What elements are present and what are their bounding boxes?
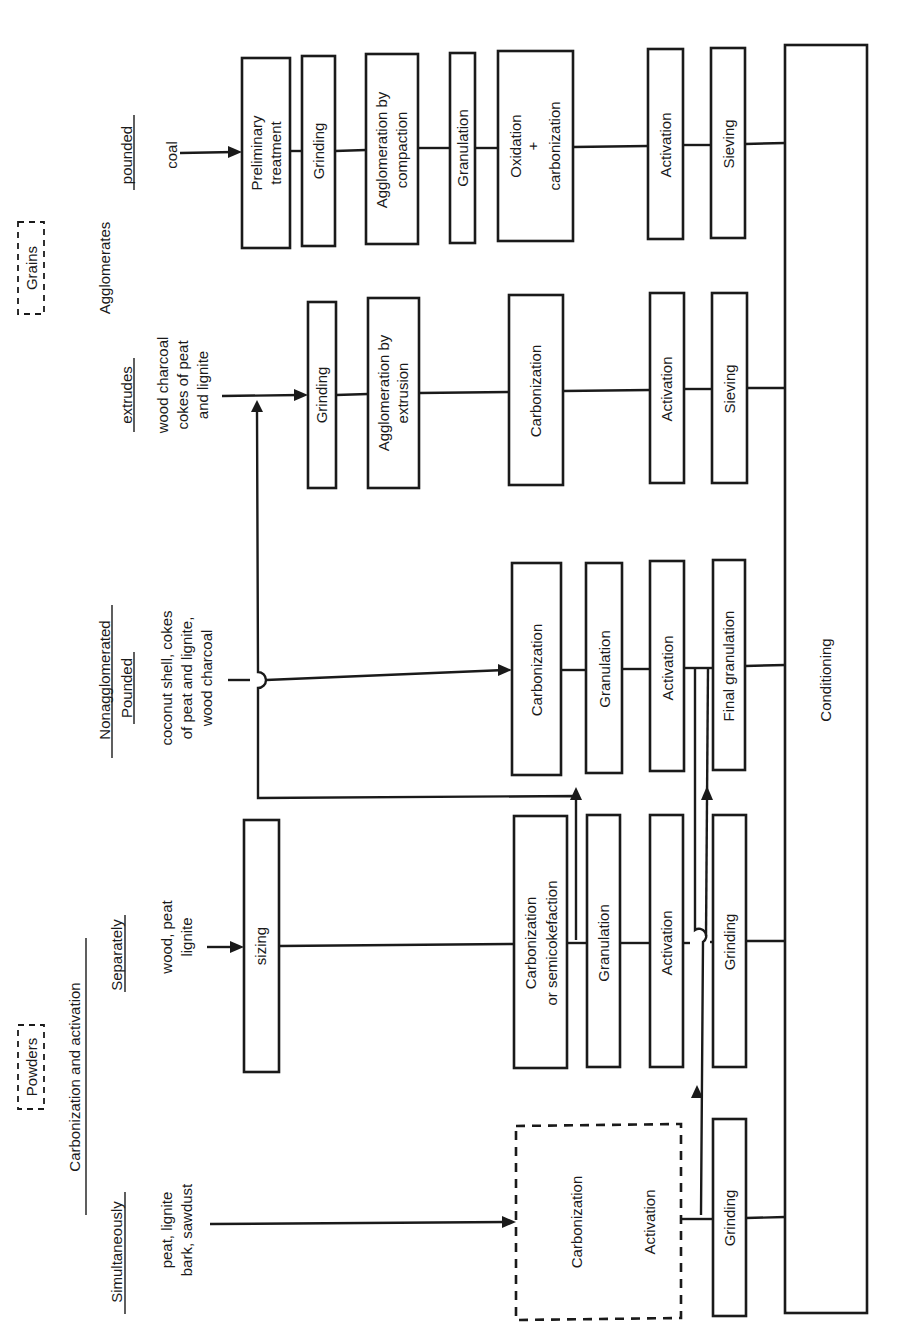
- svg-text:of peat and lignite,: of peat and lignite,: [178, 617, 195, 740]
- svg-text:cokes of peat: cokes of peat: [174, 340, 191, 430]
- svg-text:sizing: sizing: [252, 927, 269, 965]
- step-granulation-separately: Granulation: [587, 815, 620, 1067]
- svg-text:Oxidation: Oxidation: [507, 114, 524, 177]
- feed-pounded-nonagglomerated: coconut shell, cokes of peat and lignite…: [158, 610, 215, 745]
- step-activation-coal: Activation: [648, 49, 683, 239]
- activated-carbon-process-diagram: Grains Agglomerates pounded extrudes Non…: [0, 0, 903, 1340]
- step-grinding-extrudes: Grinding: [308, 302, 336, 488]
- svg-text:Carbonization: Carbonization: [528, 624, 545, 717]
- svg-text:Powders: Powders: [23, 1038, 40, 1096]
- svg-text:Activation: Activation: [658, 910, 675, 975]
- svg-text:treatment: treatment: [267, 120, 284, 184]
- feed-extrudes: wood charcoal cokes of peat and lignite: [154, 337, 211, 435]
- step-preliminary-treatment: Preliminary treatment: [242, 58, 290, 248]
- svg-text:Carbonization: Carbonization: [568, 1176, 585, 1269]
- carbonization-activation-heading: Carbonization and activation: [66, 938, 86, 1215]
- row-pounded-nonagglomerated: Carbonization Granulation Activation Fin…: [228, 560, 785, 775]
- svg-text:Carbonization: Carbonization: [522, 897, 539, 990]
- svg-text:Carbonization and activation: Carbonization and activation: [66, 982, 83, 1171]
- svg-text:lignite: lignite: [178, 917, 195, 956]
- svg-text:Grinding: Grinding: [721, 1190, 738, 1247]
- svg-text:Nonagglomerated: Nonagglomerated: [96, 620, 113, 739]
- step-sizing: sizing: [244, 820, 279, 1072]
- svg-text:wood charcoal: wood charcoal: [154, 337, 171, 435]
- step-sieving-extrudes: Sieving: [712, 293, 747, 483]
- step-carbonization-extrudes: Carbonization: [509, 295, 563, 485]
- step-sieving-coal: Sieving: [711, 48, 745, 238]
- svg-text:wood, peat: wood, peat: [158, 899, 175, 974]
- step-granulation-coal: Granulation: [450, 53, 475, 243]
- svg-text:extrusion: extrusion: [394, 363, 411, 424]
- svg-text:carbonization: carbonization: [546, 101, 563, 190]
- step-agglomeration-compaction: Agglomeration by compaction: [366, 54, 418, 244]
- svg-text:or semicokefaction: or semicokefaction: [543, 880, 560, 1005]
- svg-text:Preliminary: Preliminary: [248, 115, 265, 191]
- svg-text:Final granulation: Final granulation: [720, 611, 737, 722]
- svg-text:compaction: compaction: [393, 112, 410, 189]
- svg-text:coconut shell, cokes: coconut shell, cokes: [158, 610, 175, 745]
- svg-text:Grinding: Grinding: [313, 367, 330, 424]
- svg-text:Simultaneously: Simultaneously: [108, 1201, 125, 1303]
- svg-text:Conditioning: Conditioning: [817, 638, 834, 721]
- svg-text:Separately: Separately: [108, 919, 125, 991]
- svg-text:Activation: Activation: [641, 1189, 658, 1254]
- svg-text:Activation: Activation: [659, 635, 676, 700]
- step-activation-separately: Activation: [650, 815, 683, 1067]
- extrudes-heading: extrudes: [118, 358, 135, 432]
- step-grinding-simultaneously: Grinding: [713, 1119, 746, 1316]
- connector-activation-to-final-granulation: [691, 668, 713, 1215]
- svg-text:Grinding: Grinding: [310, 123, 327, 180]
- svg-text:Carbonization: Carbonization: [527, 345, 544, 438]
- step-final-granulation: Final granulation: [713, 560, 745, 770]
- step-oxidation-carbonization: Oxidation + carbonization: [498, 51, 573, 241]
- svg-text:bark, sawdust: bark, sawdust: [178, 1183, 195, 1276]
- svg-text:Grains: Grains: [23, 246, 40, 290]
- svg-text:wood charcoal: wood charcoal: [198, 630, 215, 728]
- svg-text:+: +: [524, 141, 541, 150]
- step-grinding-separately: Grinding: [713, 815, 746, 1067]
- svg-text:Granulation: Granulation: [595, 904, 612, 982]
- svg-text:Grinding: Grinding: [721, 914, 738, 971]
- svg-text:peat, lignite: peat, lignite: [158, 1192, 175, 1269]
- nonagglomerated-heading: Nonagglomerated: [96, 605, 113, 758]
- step-activation-extrudes: Activation: [650, 293, 684, 483]
- step-carbonization-activation-combined: Carbonization Activation: [516, 1124, 681, 1320]
- row-simultaneously: Carbonization Activation Grinding: [210, 1119, 785, 1320]
- step-activation-nonagglomerated: Activation: [650, 561, 684, 771]
- row-pounded-coal: Preliminary treatment Grinding Agglomera…: [180, 48, 785, 248]
- row-separately: sizing Carbonization or semicokefaction …: [207, 815, 785, 1072]
- svg-text:Sieving: Sieving: [721, 364, 738, 413]
- svg-text:Pounded: Pounded: [118, 658, 135, 718]
- conditioning-box: Conditioning: [785, 45, 867, 1313]
- simultaneously-heading: Simultaneously: [108, 1192, 125, 1314]
- grains-label: Grains: [18, 222, 44, 314]
- step-carbonization-nonagglomerated: Carbonization: [512, 563, 561, 775]
- svg-text:Agglomeration by: Agglomeration by: [373, 91, 390, 208]
- agglomerates-heading: Agglomerates: [96, 222, 113, 315]
- svg-text:Granulation: Granulation: [596, 630, 613, 708]
- step-carbonization-semicokefaction: Carbonization or semicokefaction: [514, 816, 567, 1068]
- step-grinding-coal: Grinding: [302, 56, 335, 246]
- svg-text:Agglomerates: Agglomerates: [96, 222, 113, 315]
- svg-text:Activation: Activation: [657, 112, 674, 177]
- svg-text:Agglomeration by: Agglomeration by: [375, 334, 392, 451]
- svg-text:extrudes: extrudes: [118, 366, 135, 424]
- feed-simultaneously: peat, lignite bark, sawdust: [158, 1183, 195, 1276]
- step-agglomeration-extrusion: Agglomeration by extrusion: [368, 298, 419, 488]
- svg-text:Activation: Activation: [658, 356, 675, 421]
- svg-text:Sieving: Sieving: [720, 119, 737, 168]
- svg-text:coal: coal: [163, 141, 180, 169]
- feed-separately: wood, peat lignite: [158, 899, 195, 974]
- feed-coal: coal: [163, 141, 180, 169]
- pounded-coal-heading: pounded: [118, 115, 135, 190]
- svg-text:pounded: pounded: [118, 126, 135, 184]
- svg-text:Granulation: Granulation: [454, 109, 471, 187]
- powders-label: Powders: [18, 1025, 44, 1109]
- separately-heading: Separately: [108, 915, 125, 992]
- step-granulation-nonagglomerated: Granulation: [586, 563, 622, 773]
- svg-text:and lignite: and lignite: [194, 351, 211, 419]
- pounded-nonagglomerated-heading: Pounded: [118, 652, 135, 724]
- row-extrudes: Grinding Agglomeration by extrusion Carb…: [222, 293, 785, 488]
